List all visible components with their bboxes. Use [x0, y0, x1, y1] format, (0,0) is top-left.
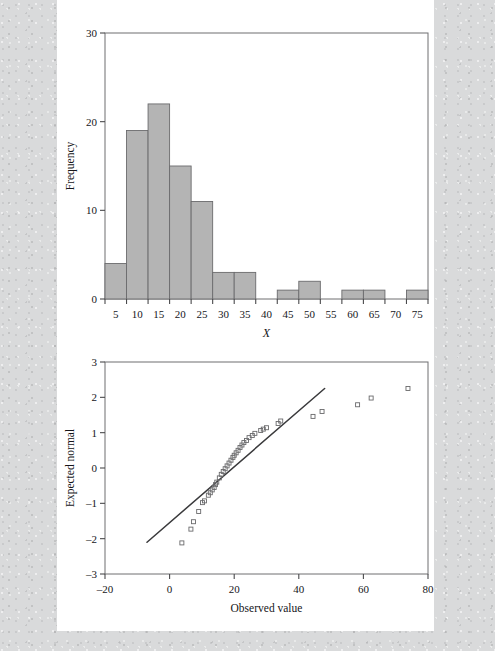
qq-point: [406, 387, 410, 391]
x-tick-label: 40: [293, 583, 305, 595]
histogram-y-axis-title: Frequency: [64, 141, 77, 190]
histogram-bar: [342, 290, 364, 299]
qq-x-axis-title: Observed value: [231, 602, 303, 614]
y-tick-label: 10: [86, 204, 98, 216]
x-tick-label: 60: [347, 308, 359, 320]
x-tick-label: 10: [132, 308, 144, 320]
histogram-svg: 010203051015202530354045505560657075XFre…: [57, 22, 434, 342]
histogram-bar: [191, 201, 213, 299]
qq-point: [311, 414, 315, 418]
x-tick-label: 55: [326, 308, 338, 320]
qq-point: [279, 419, 283, 423]
x-tick-label: 60: [358, 583, 370, 595]
histogram-panel: 010203051015202530354045505560657075XFre…: [57, 22, 434, 342]
qq-point: [356, 403, 360, 407]
histogram-bar: [277, 290, 299, 299]
histogram-bar: [213, 272, 235, 299]
y-tick-label: 1: [92, 427, 98, 439]
histogram-y-axis: 0102030: [86, 27, 105, 305]
x-tick-label: 45: [283, 308, 295, 320]
x-tick-label: 15: [153, 308, 165, 320]
x-tick-label: 35: [239, 308, 251, 320]
x-tick-label: 65: [369, 308, 381, 320]
x-tick-label: –20: [96, 583, 114, 595]
histogram-bar: [234, 272, 256, 299]
y-tick-label: –1: [85, 497, 97, 509]
histogram-bar: [148, 104, 170, 299]
qq-point: [197, 509, 201, 513]
y-tick-label: 3: [92, 356, 98, 368]
qq-y-axis-title: Expected normal: [64, 429, 77, 507]
x-tick-label: 75: [412, 308, 424, 320]
x-tick-label: 0: [167, 583, 173, 595]
y-tick-label: –2: [85, 533, 97, 545]
histogram-bar: [299, 281, 321, 299]
histogram-bar: [170, 166, 192, 299]
histogram-x-axis: 51015202530354045505560657075: [105, 299, 428, 320]
y-tick-label: –3: [85, 568, 98, 580]
qq-plot-svg: –3–2–10123–20020406080Observed valueExpe…: [57, 352, 434, 622]
x-tick-label: 30: [218, 308, 230, 320]
qq-plot-frame: [105, 362, 428, 574]
qq-point: [320, 409, 324, 413]
qq-x-axis: –20020406080: [96, 574, 434, 595]
histogram-x-axis-title: X: [262, 326, 271, 340]
y-tick-label: 0: [92, 293, 98, 305]
y-tick-label: 20: [86, 116, 98, 128]
qq-point: [259, 429, 263, 433]
histogram-bars: [105, 104, 428, 299]
qq-point: [189, 527, 193, 531]
qq-y-axis: –3–2–10123: [85, 356, 105, 580]
qq-point: [180, 541, 184, 545]
histogram-bar: [406, 290, 428, 299]
histogram-bar: [105, 264, 127, 299]
qq-point: [192, 520, 196, 524]
x-tick-label: 50: [304, 308, 316, 320]
figure-sheet: 010203051015202530354045505560657075XFre…: [57, 0, 434, 631]
y-tick-label: 2: [92, 391, 98, 403]
qq-point: [369, 396, 373, 400]
x-tick-label: 25: [196, 308, 208, 320]
x-tick-label: 20: [175, 308, 187, 320]
x-tick-label: 40: [261, 308, 273, 320]
qq-point: [276, 421, 280, 425]
y-tick-label: 0: [92, 462, 98, 474]
qq-data-points: [180, 387, 410, 545]
x-tick-label: 20: [229, 583, 241, 595]
qq-panel: –3–2–10123–20020406080Observed valueExpe…: [57, 352, 434, 622]
y-tick-label: 30: [86, 27, 98, 39]
x-tick-label: 70: [390, 308, 402, 320]
x-tick-label: 80: [423, 583, 435, 595]
histogram-bar: [127, 131, 149, 299]
x-tick-label: 5: [113, 308, 119, 320]
qq-reference-line: [147, 389, 325, 543]
histogram-bar: [363, 290, 385, 299]
